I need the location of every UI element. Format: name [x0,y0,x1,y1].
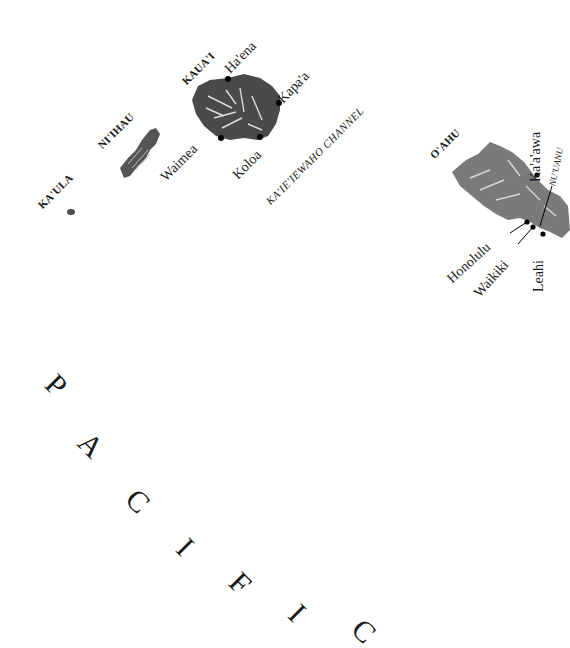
koloa-dot [257,134,263,140]
niihau-island [120,128,160,178]
kauai-island [192,74,280,140]
town-label-kaaawa: Ka'a'awa [529,132,543,182]
leahi-dot [540,231,545,236]
waimea-dot [218,135,224,141]
kaula-island [67,209,75,215]
town-label-leahi: Leahi [532,260,546,292]
haena-dot [225,76,231,82]
